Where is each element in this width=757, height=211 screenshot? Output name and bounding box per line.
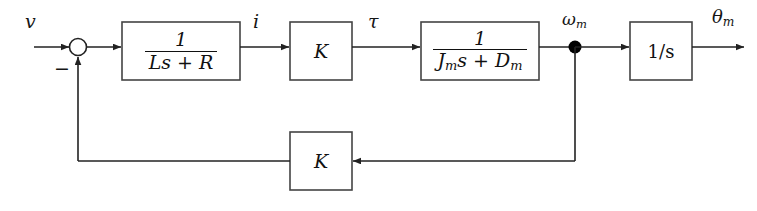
denominator-plus: + (473, 49, 489, 71)
summing-junction-minus-sign: − (54, 57, 70, 79)
denominator-D: D (495, 49, 510, 71)
signal-label-current-i: i (253, 10, 259, 32)
block-torque-constant-label: K (290, 22, 352, 80)
mechanical-plant-numerator: 1 (470, 29, 490, 49)
electrical-plant-numerator: 1 (171, 30, 191, 50)
block-mechanical-plant-label: 1 Jms + Dm (421, 22, 539, 80)
signal-label-input-v: v (25, 10, 36, 32)
theta-glyph: θ (712, 6, 723, 27)
denominator-L: L (149, 51, 162, 73)
block-diagram: 1 Ls + R K 1 Jms + Dm 1/s K v i τ ωm θm … (0, 0, 757, 211)
signal-label-position-theta-m: θm (712, 6, 734, 29)
denominator-J: J (437, 49, 445, 71)
signal-label-torque-tau: τ (368, 10, 379, 32)
omega-subscript: m (576, 17, 587, 31)
denominator-J-subscript: m (445, 59, 457, 74)
denominator-s: s (161, 51, 171, 73)
electrical-plant-denominator: Ls + R (145, 52, 218, 72)
denominator-R: R (199, 51, 213, 73)
block-integrator-label: 1/s (630, 22, 692, 80)
theta-subscript: m (723, 15, 735, 29)
denominator-D-subscript: m (510, 59, 522, 74)
denominator-plus: + (177, 51, 193, 73)
mechanical-plant-denominator: Jms + Dm (433, 50, 526, 73)
summing-junction (70, 39, 87, 56)
block-back-emf-constant-label: K (290, 132, 352, 190)
block-electrical-plant-label: 1 Ls + R (122, 22, 240, 80)
denominator-s: s (457, 49, 467, 71)
signal-label-speed-omega-m: ωm (562, 9, 587, 31)
omega-glyph: ω (562, 9, 576, 29)
